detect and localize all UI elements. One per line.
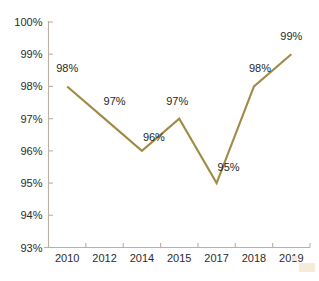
y-tick-label: 97%	[20, 113, 42, 125]
data-point-label-2019: 99%	[280, 30, 302, 42]
y-tick-label: 93%	[20, 242, 42, 254]
x-tick-label-2017: 2017	[204, 252, 228, 264]
data-point-label-2014: 96%	[143, 131, 165, 143]
y-axis-ticks	[49, 22, 54, 248]
y-tick-label: 96%	[20, 145, 42, 157]
x-tick-label-2010: 2010	[55, 252, 79, 264]
x-tick-label-2014: 2014	[130, 252, 154, 264]
corner-artifact-small	[292, 256, 297, 261]
corner-artifact-block	[299, 263, 315, 272]
line-chart-plot: 93%94%95%96%97%98%99%100% 20102012201420…	[0, 0, 319, 281]
x-axis-ticks	[49, 243, 311, 248]
x-tick-label-2012: 2012	[92, 252, 116, 264]
y-tick-label: 100%	[14, 16, 42, 28]
data-point-label-2010: 98%	[56, 62, 78, 74]
x-tick-label-2018: 2018	[242, 252, 266, 264]
data-point-label-2018: 98%	[249, 62, 271, 74]
chart-figure: 93%94%95%96%97%98%99%100% 20102012201420…	[0, 0, 319, 281]
y-tick-label: 95%	[20, 177, 42, 189]
data-point-labels: 98%97%96%97%95%98%99%	[56, 30, 302, 173]
x-axis-tick-labels: 2010201220142015201720182019	[55, 252, 304, 264]
y-tick-label: 94%	[20, 209, 42, 221]
y-axis-tick-labels: 93%94%95%96%97%98%99%100%	[14, 16, 42, 254]
data-point-label-2015: 97%	[166, 95, 188, 107]
data-point-label-2017: 95%	[218, 161, 240, 173]
x-tick-label-2015: 2015	[167, 252, 191, 264]
data-point-label-2012: 97%	[104, 95, 126, 107]
y-tick-label: 99%	[20, 48, 42, 60]
y-tick-label: 98%	[20, 80, 42, 92]
